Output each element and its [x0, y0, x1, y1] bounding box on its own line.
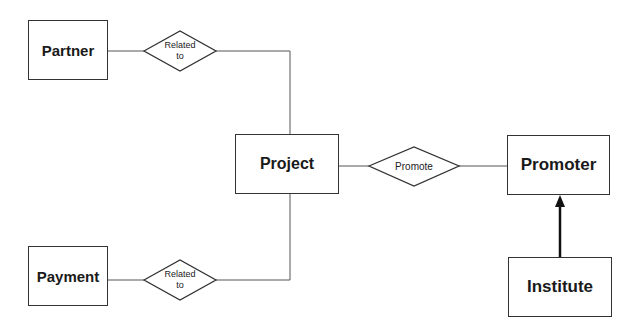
isa-arrowhead-icon	[555, 195, 565, 207]
relationship-promote: Promote	[369, 147, 459, 186]
entity-institute: Institute	[508, 257, 612, 317]
entity-payment: Payment	[28, 246, 108, 306]
er-diagram: Partner Project Promoter Payment Institu…	[0, 0, 636, 329]
entity-partner: Partner	[28, 20, 108, 80]
relationship-related-to-partner: Related to	[144, 31, 216, 71]
relationship-related-to-payment: Related to	[144, 260, 216, 300]
entity-promoter: Promoter	[507, 135, 610, 195]
edge-related-project-bottom	[216, 194, 290, 280]
entity-project: Project	[235, 134, 339, 194]
edge-related-project	[216, 51, 290, 134]
